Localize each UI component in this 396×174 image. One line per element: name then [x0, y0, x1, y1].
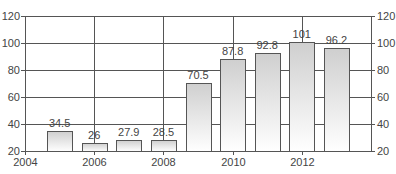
bar-2013: [325, 49, 350, 152]
y-tick-right-20: 20: [377, 145, 389, 157]
y-tick-left-20: 20: [0, 145, 20, 157]
x-tick-2012: 2012: [287, 156, 319, 168]
bar-2005: [48, 132, 73, 152]
y-tick-right-80: 80: [377, 64, 389, 76]
bar-2011: [256, 54, 281, 152]
y-tick-left-40: 40: [0, 118, 20, 130]
y-tick-right-60: 60: [377, 91, 389, 103]
bar-value-label-2005: 34.5: [40, 117, 80, 129]
bar-2010: [221, 60, 246, 152]
y-tick-left-120: 120: [0, 10, 20, 22]
y-tick-left-80: 80: [0, 64, 20, 76]
x-tick-2010: 2010: [218, 156, 250, 168]
bar-value-label-2009: 70.5: [178, 69, 218, 81]
bar-2007: [117, 141, 142, 152]
y-tick-right-40: 40: [377, 118, 389, 130]
bar-value-label-2011: 92.8: [247, 39, 287, 51]
x-tick-2008: 2008: [148, 156, 180, 168]
x-tick-2006: 2006: [79, 156, 111, 168]
y-tick-left-100: 100: [0, 37, 20, 49]
bar-value-label-2008: 28.5: [143, 126, 183, 138]
x-tick-2004: 2004: [10, 156, 42, 168]
y-tick-right-120: 120: [377, 10, 395, 22]
bar-2008: [152, 141, 177, 152]
bar-2006: [83, 144, 108, 152]
bar-2012: [290, 43, 315, 152]
y-tick-right-100: 100: [377, 37, 395, 49]
bar-chart: 2020404060608080100100120120200420062008…: [0, 0, 396, 174]
bar-2009: [187, 84, 212, 152]
chart-canvas: [0, 0, 396, 174]
y-tick-left-60: 60: [0, 91, 20, 103]
bar-value-label-2013: 96.2: [316, 34, 356, 46]
